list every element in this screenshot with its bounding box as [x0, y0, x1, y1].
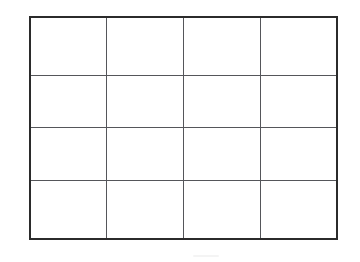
blank-grid-table: [29, 16, 338, 240]
table-cell[interactable]: [107, 181, 184, 239]
table-body: [30, 17, 337, 239]
table-cell[interactable]: [184, 181, 261, 239]
table-cell[interactable]: [107, 128, 184, 181]
scanned-page: [0, 0, 360, 262]
cell-text: [107, 18, 183, 22]
cell-text: [31, 128, 106, 132]
table-row: [30, 181, 337, 239]
cell-text: [184, 18, 260, 22]
cell-text: [107, 181, 183, 185]
cell-text: [261, 76, 336, 80]
table-cell[interactable]: [30, 17, 107, 75]
table-cell[interactable]: [184, 128, 261, 181]
table-cell[interactable]: [30, 128, 107, 181]
table-cell[interactable]: [184, 75, 261, 128]
cell-text: [107, 76, 183, 80]
cell-text: [31, 76, 106, 80]
cell-text: [184, 76, 260, 80]
cell-text: [184, 128, 260, 132]
table-cell[interactable]: [107, 75, 184, 128]
table-cell[interactable]: [30, 75, 107, 128]
cell-text: [31, 18, 106, 22]
cell-text: [107, 128, 183, 132]
scan-smudge: [193, 255, 219, 257]
table-cell[interactable]: [184, 17, 261, 75]
table-cell[interactable]: [30, 181, 107, 239]
table-cell[interactable]: [260, 181, 337, 239]
cell-text: [261, 128, 336, 132]
table-cell[interactable]: [260, 17, 337, 75]
table-row: [30, 75, 337, 128]
cell-text: [261, 181, 336, 185]
cell-text: [261, 18, 336, 22]
cell-text: [31, 181, 106, 185]
table-cell[interactable]: [107, 17, 184, 75]
table-cell[interactable]: [260, 75, 337, 128]
table-row: [30, 17, 337, 75]
cell-text: [184, 181, 260, 185]
table-cell[interactable]: [260, 128, 337, 181]
table-row: [30, 128, 337, 181]
